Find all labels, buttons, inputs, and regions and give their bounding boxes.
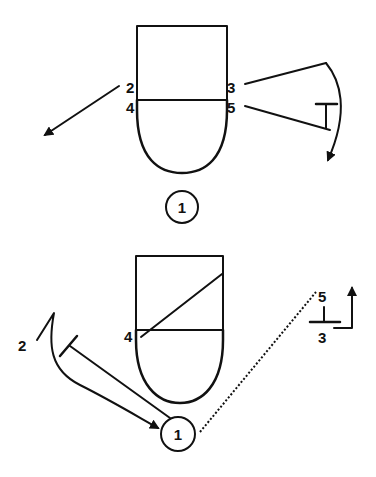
- player-5-label: 5: [318, 288, 326, 305]
- player-2-label: 2: [126, 79, 134, 96]
- cut-path-3: [245, 63, 326, 84]
- player-4-label: 4: [124, 328, 133, 345]
- player-3-label: 3: [318, 329, 326, 346]
- player-5-label: 5: [227, 99, 235, 116]
- play-diagram-bottom: 2 4 5 3 1: [18, 256, 352, 451]
- player-3-label: 3: [227, 79, 235, 96]
- lane-box: [137, 26, 227, 100]
- play-diagram-top: 2 3 4 5 1: [45, 26, 341, 223]
- cut-path-2: [45, 86, 119, 135]
- free-throw-semicircle: [136, 330, 223, 403]
- basketball-play-diagrams: 2 3 4 5 1 2 4 5 3 1: [0, 0, 376, 477]
- free-throw-semicircle: [137, 100, 227, 173]
- screen-path-5: [245, 106, 330, 130]
- curve-path-3: [326, 63, 341, 160]
- player-2-label: 2: [18, 337, 26, 354]
- pass-line-1-to-5: [200, 292, 316, 432]
- player-4-label: 4: [126, 99, 135, 116]
- screen-bar-1: [60, 336, 77, 356]
- player-1-label: 1: [178, 199, 186, 216]
- player-1-label: 1: [174, 426, 182, 443]
- lane-box: [136, 256, 223, 330]
- diagonal-cut-4: [141, 274, 222, 337]
